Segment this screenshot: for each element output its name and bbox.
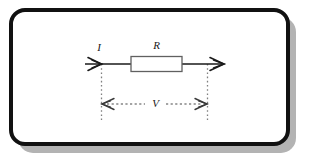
diagram-frame — [11, 10, 288, 144]
figure-container: I R V — [0, 0, 309, 165]
circuit-diagram: I R V — [0, 0, 309, 165]
resistance-label: R — [152, 39, 160, 51]
resistor-body — [131, 57, 182, 72]
